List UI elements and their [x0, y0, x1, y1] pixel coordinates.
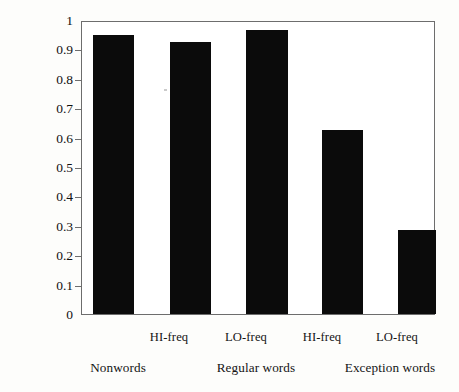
x-sublabel-exception-lo-freq: LO-freq — [357, 330, 437, 345]
bar-nonwords — [93, 35, 134, 314]
plot-area — [81, 21, 435, 315]
x-sublabel-exception-hi-freq: HI-freq — [282, 330, 362, 345]
x-group-label-regular-words: Regular words — [196, 360, 316, 376]
x-group-label-nonwords: Nonwords — [63, 360, 173, 376]
y-tick-label-1: 1 — [66, 13, 73, 29]
bar-regular-lo-freq — [246, 30, 288, 314]
y-tick-label-0.6: 0.6 — [56, 131, 73, 147]
x-sublabel-regular-lo-freq: LO-freq — [206, 330, 286, 345]
scan-speck — [164, 89, 167, 91]
y-tick-label-0.5: 0.5 — [56, 160, 73, 176]
bar-regular-hi-freq — [170, 42, 211, 314]
y-tick-label-0.8: 0.8 — [56, 72, 73, 88]
y-tick-label-0.1: 0.1 — [56, 278, 73, 294]
bar-exception-hi-freq — [322, 130, 363, 314]
x-group-label-exception-words: Exception words — [325, 360, 455, 376]
bar-exception-lo-freq — [398, 230, 436, 314]
bar-chart-figure: Percentage correctly read out aloud 0 0.… — [0, 0, 459, 392]
y-tick-label-0.4: 0.4 — [56, 189, 73, 205]
y-tick-label-0.2: 0.2 — [56, 248, 73, 264]
bars-container — [82, 22, 434, 314]
y-tick-label-0: 0 — [66, 307, 73, 323]
y-tick-label-0.3: 0.3 — [56, 219, 73, 235]
x-sublabel-regular-hi-freq: HI-freq — [129, 330, 209, 345]
y-tick-label-0.9: 0.9 — [56, 42, 73, 58]
y-tick-label-0.7: 0.7 — [56, 101, 73, 117]
